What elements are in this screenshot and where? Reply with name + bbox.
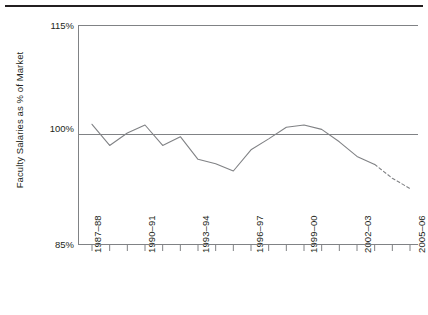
series-line-solid [92, 124, 375, 171]
y-tick-label-115: 115% [28, 20, 74, 31]
y-tick-label-85: 85% [28, 239, 74, 250]
y-tick-label-100: 100% [28, 123, 74, 134]
top-divider-rule [5, 5, 423, 7]
series-line-projected [375, 164, 410, 188]
figure-container: Faculty Salaries as % of Market 115% 100… [0, 0, 428, 315]
x-tick-marks [92, 244, 410, 251]
y-axis-title: Faculty Salaries as % of Market [13, 0, 27, 243]
plot-area [78, 25, 418, 244]
chart-svg [78, 25, 418, 255]
